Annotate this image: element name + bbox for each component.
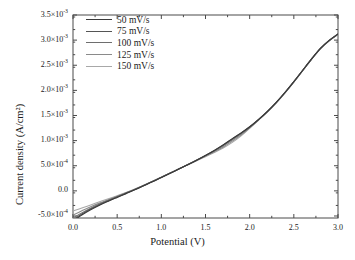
legend-item-label: 150 mV/s	[117, 61, 154, 71]
x-tick-label: 0.5	[97, 223, 137, 232]
legend-item-50-mv-s[interactable]: 50 mV/s	[86, 14, 154, 26]
y-tick-label: 1.0×10-3	[12, 135, 68, 144]
legend-line-swatch	[86, 42, 112, 43]
legend-line-swatch	[86, 54, 112, 55]
x-tick-label: 0.0	[53, 223, 93, 232]
legend-line-swatch	[86, 19, 112, 20]
legend-line-swatch	[86, 66, 112, 67]
legend-item-label: 75 mV/s	[117, 26, 149, 36]
legend-item-100-mv-s[interactable]: 100 mV/s	[86, 37, 154, 49]
figure-canvas: Potential (V) Current density (A/cm²) 50…	[0, 0, 355, 260]
y-tick-label: -5.0×10-4	[12, 210, 68, 219]
legend-item-label: 100 mV/s	[117, 38, 154, 48]
legend-item-label: 125 mV/s	[117, 50, 154, 60]
y-tick-label: 2.5×10-3	[12, 60, 68, 69]
y-tick-label: 5.0×10-4	[12, 160, 68, 169]
x-tick-label: 2.0	[230, 223, 270, 232]
x-tick-label: 1.0	[141, 223, 181, 232]
legend-item-125-mv-s[interactable]: 125 mV/s	[86, 49, 154, 61]
y-tick-label: 3.0×10-3	[12, 35, 68, 44]
y-tick-label: 0.0	[12, 185, 68, 194]
legend-line-swatch	[86, 31, 112, 32]
chart-legend: 50 mV/s75 mV/s100 mV/s125 mV/s150 mV/s	[86, 14, 154, 72]
y-tick-label: 3.5×10-3	[12, 10, 68, 19]
x-tick-label: 2.5	[274, 223, 314, 232]
legend-item-label: 50 mV/s	[117, 15, 149, 25]
x-axis-title: Potential (V)	[0, 236, 355, 247]
x-tick-label: 1.5	[186, 223, 226, 232]
y-tick-label: 1.5×10-3	[12, 110, 68, 119]
y-tick-label: 2.0×10-3	[12, 85, 68, 94]
x-tick-label: 3.0	[318, 223, 355, 232]
legend-item-150-mv-s[interactable]: 150 mV/s	[86, 60, 154, 72]
legend-item-75-mv-s[interactable]: 75 mV/s	[86, 26, 154, 38]
